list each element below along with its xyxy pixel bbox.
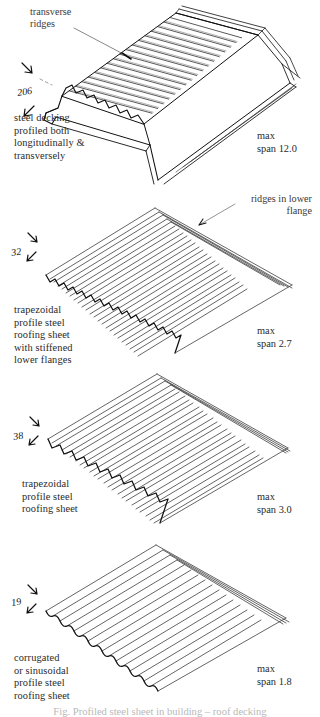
caption-steel-decking: steel decking profiled both longitudinal… <box>14 112 85 162</box>
figure-bottom-caption: Fig. Profiled steel sheet in building – … <box>0 706 320 717</box>
dimension-depth-19: 19 <box>10 596 22 608</box>
caption-trapezoidal-stiffened: trapezoidal profile steel roofing sheet … <box>14 304 73 367</box>
max-span-panel-1: max span 12.0 <box>257 130 297 155</box>
caption-corrugated-sinusoidal: corrugated or sinusoidal profile steel r… <box>14 652 70 702</box>
dimension-depth-38: 38 <box>12 430 24 442</box>
panel-steel-decking: transverse ridges 206 steel decking prof… <box>0 0 320 185</box>
panel-corrugated-sinusoidal: 19 corrugated or sinusoidal profile stee… <box>0 535 320 700</box>
annotation-transverse-ridges: transverse ridges <box>30 6 71 30</box>
figure-page: transverse ridges 206 steel decking prof… <box>0 0 320 717</box>
panel-trapezoidal-plain: 38 trapezoidal profile steel roofing she… <box>0 363 320 535</box>
max-span-panel-3: max span 3.0 <box>257 491 292 516</box>
annotation-ridges-lower-flange: ridges in lower flange <box>172 193 312 217</box>
dimension-depth-32: 32 <box>10 246 22 258</box>
panel-trapezoidal-stiffened: ridges in lower flange 32 trapezoidal pr… <box>0 185 320 363</box>
max-span-panel-4: max span 1.8 <box>257 663 292 688</box>
caption-trapezoidal-plain: trapezoidal profile steel roofing sheet <box>22 478 78 516</box>
dimension-depth-206: 206 <box>16 85 33 98</box>
max-span-panel-2: max span 2.7 <box>257 325 292 350</box>
